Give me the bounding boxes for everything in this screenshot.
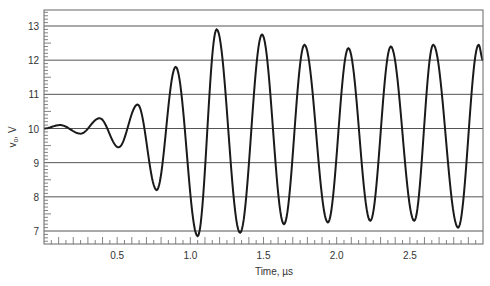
y-tick-label: 11 [29,89,40,100]
x-tick-label: 2.0 [330,250,344,261]
x-tick-label: 1.5 [257,250,271,261]
y-axis-title-unit: , V [7,126,18,139]
x-axis-tick-labels: 0.51.01.52.02.5 [110,250,417,261]
y-tick-label: 12 [28,55,40,66]
y-tick-label: 13 [28,21,40,32]
x-tick-label: 0.5 [110,250,124,261]
gridlines [44,26,483,231]
line-chart: 78910111213 0.51.01.52.02.5 Time, µs vo,… [0,0,490,286]
y-tick-label: 10 [28,124,40,135]
y-tick-label: 8 [33,192,39,203]
x-axis-title: Time, µs [255,266,293,277]
y-tick-label: 9 [33,158,39,169]
x-tick-label: 2.5 [403,250,417,261]
y-axis-title: vo, V [7,126,19,147]
y-axis-tick-labels: 78910111213 [28,21,40,237]
x-tick-label: 1.0 [183,250,197,261]
x-axis-ticks [51,237,475,244]
y-tick-label: 7 [33,226,39,237]
